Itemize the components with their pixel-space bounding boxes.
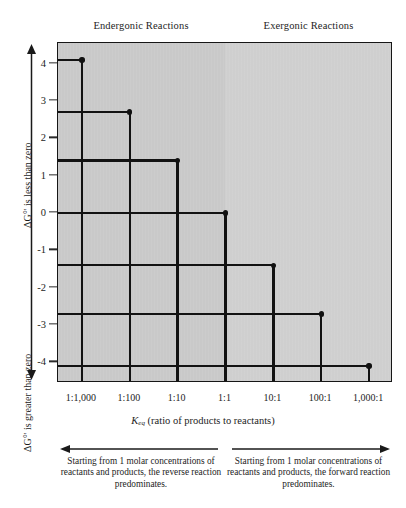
x-tick-label: 1:1 xyxy=(218,392,231,403)
caption-forward-reaction: Starting from 1 molar concentrations of … xyxy=(225,456,392,490)
y-tick-mark xyxy=(49,99,57,100)
step-vertical-segment xyxy=(129,112,131,382)
x-tick-label: 1:100 xyxy=(117,392,140,403)
data-point-marker xyxy=(319,311,324,316)
step-horizontal-segment xyxy=(58,159,178,161)
y-tick-mark xyxy=(49,211,57,212)
x-tick-label: 10:1 xyxy=(263,392,281,403)
x-axis-title-subscript: eq xyxy=(138,419,145,427)
y-tick-label: 0 xyxy=(41,207,46,218)
step-vertical-segment xyxy=(224,213,226,382)
caption-reverse-reaction: Starting from 1 molar concentrations of … xyxy=(57,456,225,490)
x-tick-label: 1,000:1 xyxy=(353,392,383,403)
y-tick-label: -3 xyxy=(37,319,46,330)
data-point-marker xyxy=(175,158,180,163)
data-point-marker xyxy=(223,210,228,215)
y-tick-mark xyxy=(49,323,57,324)
y-tick-mark xyxy=(49,361,57,362)
y-tick-mark xyxy=(49,174,57,175)
step-horizontal-segment xyxy=(58,365,369,367)
y-tick-label: -1 xyxy=(37,244,46,255)
forward-direction-arrow xyxy=(232,445,390,453)
y-tick-mark xyxy=(49,249,57,250)
region-header-exergonic: Exergonic Reactions xyxy=(225,20,392,31)
y-tick-mark xyxy=(49,62,57,63)
y-tick-mark xyxy=(49,137,57,138)
x-tick-label: 1:1,000 xyxy=(66,392,96,403)
y-tick-label: 1 xyxy=(41,169,46,180)
exergonic-shading xyxy=(225,43,392,381)
reverse-direction-arrow xyxy=(60,445,218,453)
step-horizontal-segment xyxy=(58,111,130,113)
x-axis-ticks: 1:1,0001:1001:101:110:1100:11,000:1 xyxy=(0,384,406,406)
y-tick-label: 2 xyxy=(41,132,46,143)
y-tick-label: 4 xyxy=(41,57,46,68)
x-tick-label: 100:1 xyxy=(309,392,332,403)
data-point-marker xyxy=(79,57,84,62)
step-vertical-segment xyxy=(81,60,83,382)
step-horizontal-segment xyxy=(58,264,273,266)
step-vertical-segment xyxy=(320,314,322,382)
direction-arrow-bar xyxy=(0,443,406,455)
region-header-endergonic: Endergonic Reactions xyxy=(57,20,225,31)
y-tick-label: -2 xyxy=(37,281,46,292)
data-point-marker xyxy=(366,363,371,368)
x-axis-title: Keq (ratio of products to reactants) xyxy=(0,415,406,427)
y-tick-label: -4 xyxy=(37,356,46,367)
step-horizontal-segment xyxy=(58,212,226,214)
data-point-marker xyxy=(271,263,276,268)
x-tick-label: 1:10 xyxy=(168,392,186,403)
y-axis-ticks: -4-3-2-101234 xyxy=(0,42,57,382)
y-tick-mark xyxy=(49,286,57,287)
y-tick-label: 3 xyxy=(41,94,46,105)
x-axis-title-rest: (ratio of products to reactants) xyxy=(145,415,275,426)
figure-root: Endergonic Reactions Exergonic Reactions… xyxy=(0,0,406,508)
data-point-marker xyxy=(127,109,132,114)
step-vertical-segment xyxy=(176,161,178,382)
plot-area xyxy=(57,42,392,382)
step-horizontal-segment xyxy=(58,313,321,315)
